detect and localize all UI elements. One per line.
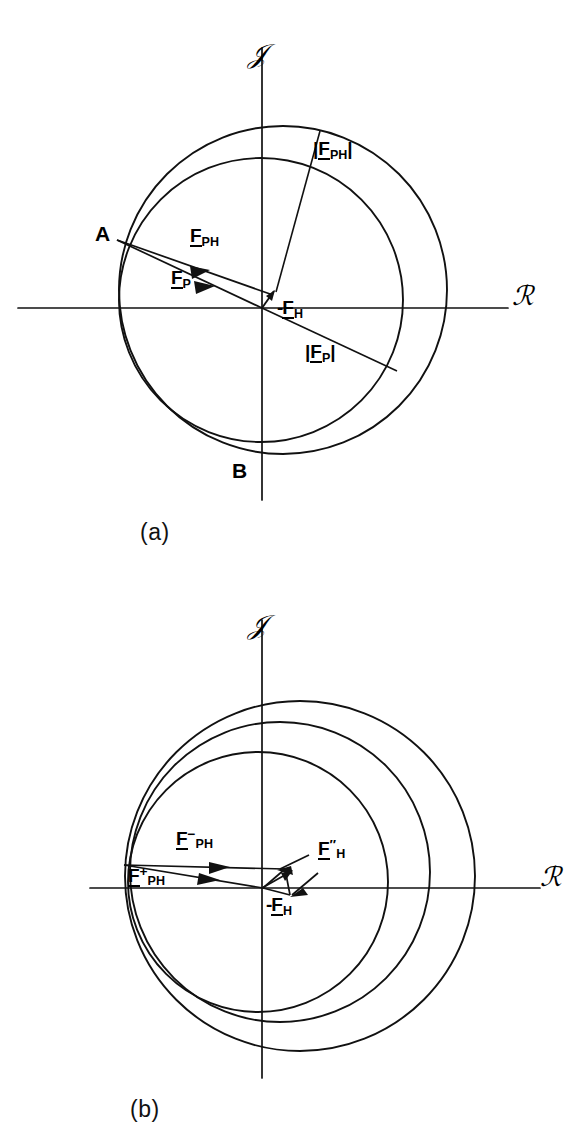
label-f-ph-minus: F−PH: [176, 828, 213, 851]
label-abs-f-ph-base: F: [318, 140, 330, 160]
point-label-b: B: [232, 459, 247, 483]
label-abs-f-p: |FP|: [305, 342, 336, 364]
point-label-a: A: [95, 222, 110, 246]
inner-locus-circle: [128, 752, 388, 1012]
vector-f-h-dprime-lower: [290, 873, 318, 897]
label-abs-f-ph-close: |: [347, 138, 352, 159]
label-f-ph-base: F: [190, 227, 202, 247]
label-f-p-sub: P: [183, 277, 191, 291]
panel-b-drawing: [0, 573, 580, 1146]
panel-b: 𝒥 ℛ F−PH F+PH F″H -FH: [0, 573, 580, 1146]
caption-panel-b: (b): [130, 1096, 160, 1123]
outer-locus-circle: [125, 701, 475, 1051]
label-f-ph-minus-sup: −: [188, 827, 196, 842]
panel-a: 𝒥 ℛ A B FPH FP -FH |FPH| |FP|: [0, 0, 580, 573]
real-axis-symbol: ℛ: [512, 280, 534, 311]
panel-a-drawing: [0, 0, 580, 573]
label-f-ph-plus-sub: PH: [148, 874, 165, 888]
label-minus-f-h-sub: H: [283, 904, 292, 918]
real-axis-symbol: ℛ: [540, 861, 562, 892]
label-f-ph-sub: PH: [202, 235, 219, 249]
label-minus-f-h: -FH: [277, 298, 303, 320]
imaginary-axis-symbol: 𝒥: [248, 609, 267, 641]
imaginary-axis-symbol: 𝒥: [248, 38, 267, 70]
label-f-ph: FPH: [190, 226, 219, 248]
label-f-h-dprime-base: F: [318, 840, 330, 860]
label-f-ph-plus-base: F: [128, 867, 140, 887]
mid-locus-circle: [130, 722, 430, 1022]
label-minus-f-h-base: F: [282, 299, 294, 319]
label-abs-f-p-close: |: [330, 341, 335, 362]
label-f-ph-minus-sub: PH: [196, 837, 213, 851]
label-minus-f-h-base: F: [271, 896, 283, 916]
force-vector-figure: 𝒥 ℛ A B FPH FP -FH |FPH| |FP| (a): [0, 0, 580, 1146]
label-minus-f-h-sub: H: [294, 307, 303, 321]
label-abs-f-ph: |FPH|: [313, 139, 353, 161]
label-f-ph-plus: F+PH: [128, 865, 165, 888]
caption-panel-a: (a): [140, 519, 170, 546]
label-f-p: FP: [171, 268, 191, 290]
label-abs-f-p-base: F: [310, 343, 322, 363]
label-f-ph-minus-base: F: [176, 830, 188, 850]
label-f-h-dprime: F″H: [318, 838, 345, 861]
label-f-p-base: F: [171, 269, 183, 289]
label-minus-f-h: -FH: [266, 895, 292, 917]
label-f-h-dprime-sub: H: [336, 847, 345, 861]
label-abs-f-ph-sub: PH: [330, 148, 347, 162]
outer-locus-circle: [119, 126, 447, 454]
label-f-ph-plus-sup: +: [140, 864, 148, 879]
